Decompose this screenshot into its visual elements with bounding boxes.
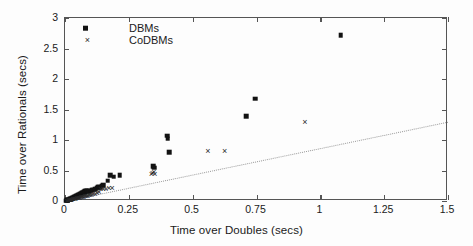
x-tick-top [320,17,321,22]
plot-area: DBMs CoDBMs [64,17,447,200]
y-tick-label: 1 [28,133,58,145]
scatter-plot-figure: Time over Rationals (secs) Time over Dou… [0,0,473,246]
data-point-dbms [118,173,123,178]
data-point-dbms [166,136,171,141]
y-tick-label: 0 [28,194,58,206]
diagonal-reference-line [65,122,448,202]
y-tick-right [442,79,447,80]
x-axis-label: Time over Doubles (secs) [0,224,473,236]
x-tick-label: 0.25 [118,203,138,215]
y-tick-right [442,171,447,172]
data-point-codbms [220,147,229,156]
x-tick [448,195,449,200]
y-tick-label: 0.5 [28,164,58,176]
y-tick-label: 1.5 [28,103,58,115]
data-point-codbms [301,118,310,127]
x-tick-top [448,17,449,22]
data-point-dbms [244,114,249,119]
y-tick-right [442,110,447,111]
y-tick [64,49,69,50]
y-tick [64,110,69,111]
data-point-codbms [108,184,117,193]
x-tick-label: 1.25 [373,203,393,215]
data-point-dbms [167,150,172,155]
x-tick [193,195,194,200]
legend-label-dbms: DBMs [129,22,159,34]
filled-square-marker-icon [83,26,88,31]
legend-label-codbms: CoDBMs [129,34,173,46]
data-point-dbms [111,174,116,179]
x-tick-label: 1 [316,203,322,215]
y-tick [64,18,69,19]
x-tick-top [193,17,194,22]
x-tick-top [384,17,385,22]
x-tick-label: 0.75 [245,203,265,215]
x-tick [320,195,321,200]
y-tick-right [442,201,447,202]
y-tick [64,79,69,80]
y-tick-label: 2.5 [28,42,58,54]
cross-marker-icon [83,36,92,45]
x-tick-label: 0.5 [184,203,199,215]
data-point-dbms [253,96,258,101]
y-tick-label: 3 [28,11,58,23]
y-tick [64,171,69,172]
x-tick-top [257,17,258,22]
y-tick [64,140,69,141]
y-tick-right [442,140,447,141]
y-axis-label: Time over Rationals (secs) [16,55,28,194]
y-tick-right [442,49,447,50]
data-point-codbms [150,169,159,178]
x-tick-label: 1.5 [440,203,455,215]
y-tick-right [442,18,447,19]
x-tick [257,195,258,200]
x-tick-label: 0 [61,203,67,215]
data-point-codbms [203,146,212,155]
x-tick [384,195,385,200]
data-point-dbms [338,33,343,38]
y-tick-label: 2 [28,72,58,84]
x-tick [129,195,130,200]
